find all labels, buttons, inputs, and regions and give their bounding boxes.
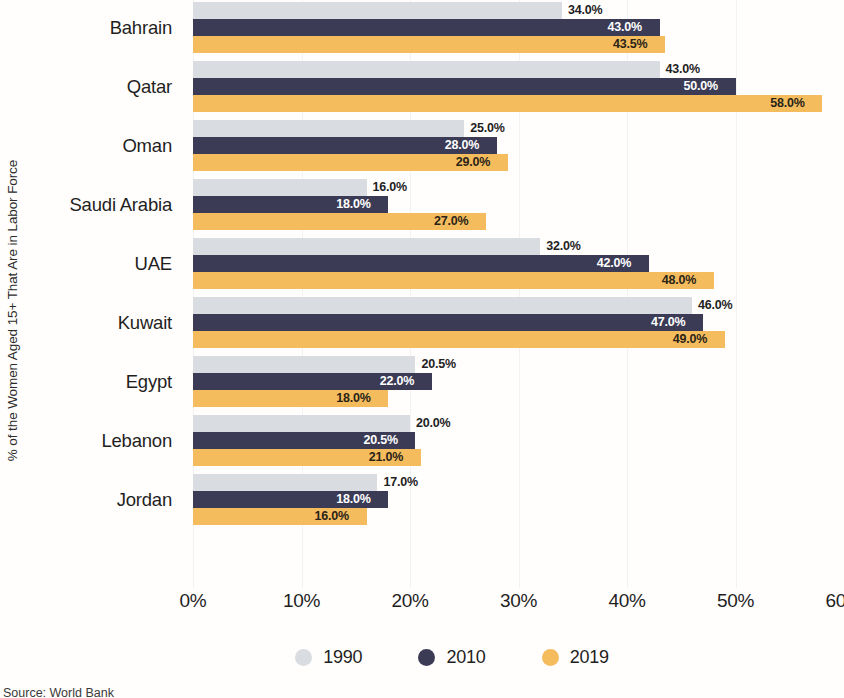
x-axis-tick-label: 20% — [391, 590, 428, 612]
bar[interactable] — [193, 19, 660, 36]
category-axis: BahrainQatarOmanSaudi ArabiaUAEKuwaitEgy… — [0, 0, 185, 588]
category-label: Bahrain — [0, 15, 172, 41]
legend-item[interactable]: 2010 — [418, 647, 485, 668]
legend-swatch-icon — [542, 649, 559, 666]
bar[interactable] — [193, 179, 367, 196]
bar-row: 43.5% — [193, 36, 844, 53]
bar-value-label: 21.0% — [369, 449, 403, 466]
bar-value-label: 42.0% — [597, 255, 631, 272]
bar[interactable] — [193, 120, 464, 137]
bar-value-label: 18.0% — [336, 196, 370, 213]
x-axis-tick-label: 30% — [500, 590, 537, 612]
x-axis-tick-label: 10% — [283, 590, 320, 612]
bar-row: 16.0% — [193, 179, 844, 196]
bar-value-label: 29.0% — [456, 154, 490, 171]
bar-group: 46.0%47.0%49.0% — [193, 297, 844, 356]
bar-value-label: 17.0% — [383, 474, 417, 491]
x-axis-tick-label: 0% — [180, 590, 207, 612]
bar-row: 17.0% — [193, 474, 844, 491]
legend-swatch-icon — [295, 649, 312, 666]
x-axis-tick-label: 40% — [608, 590, 645, 612]
bar-value-label: 22.0% — [380, 373, 414, 390]
bar-value-label: 32.0% — [546, 238, 580, 255]
bar-value-label: 25.0% — [470, 120, 504, 137]
bar-value-label: 43.0% — [666, 61, 700, 78]
legend-label: 2019 — [570, 647, 609, 668]
bar-value-label: 43.5% — [613, 36, 647, 53]
x-axis-tick-label: 60% — [825, 590, 844, 612]
category-label: Egypt — [0, 369, 172, 395]
bar-value-label: 47.0% — [651, 314, 685, 331]
bar-row: 20.0% — [193, 415, 844, 432]
bar-row: 18.0% — [193, 196, 844, 213]
bar-row: 48.0% — [193, 272, 844, 289]
bar-row: 32.0% — [193, 238, 844, 255]
bar-row: 42.0% — [193, 255, 844, 272]
bar-row: 20.5% — [193, 432, 844, 449]
bar[interactable] — [193, 95, 822, 112]
bar[interactable] — [193, 255, 649, 272]
bar-group: 34.0%43.0%43.5% — [193, 2, 844, 61]
bar-row: 21.0% — [193, 449, 844, 466]
legend-label: 2010 — [446, 647, 485, 668]
legend-label: 1990 — [323, 647, 362, 668]
bar-value-label: 18.0% — [336, 491, 370, 508]
bar-value-label: 18.0% — [336, 390, 370, 407]
bar-group: 17.0%18.0%16.0% — [193, 474, 844, 533]
bar-group: 43.0%50.0%58.0% — [193, 61, 844, 120]
bar-group: 20.5%22.0%18.0% — [193, 356, 844, 415]
bar-row: 34.0% — [193, 2, 844, 19]
legend: 199020102019 — [0, 640, 844, 674]
bar[interactable] — [193, 238, 540, 255]
category-label: Kuwait — [0, 310, 172, 336]
x-axis-tick-label: 50% — [717, 590, 754, 612]
bar-row: 29.0% — [193, 154, 844, 171]
bar-row: 47.0% — [193, 314, 844, 331]
legend-item[interactable]: 1990 — [295, 647, 362, 668]
bar-value-label: 28.0% — [445, 137, 479, 154]
bar-row: 16.0% — [193, 508, 844, 525]
bar-value-label: 49.0% — [673, 331, 707, 348]
source-note: Source: World Bank — [3, 686, 114, 698]
legend-swatch-icon — [418, 649, 435, 666]
bar-row: 43.0% — [193, 19, 844, 36]
bar-value-label: 46.0% — [698, 297, 732, 314]
bar-row: 46.0% — [193, 297, 844, 314]
bar-value-label: 50.0% — [684, 78, 718, 95]
bar-value-label: 16.0% — [315, 508, 349, 525]
legend-item[interactable]: 2019 — [542, 647, 609, 668]
bar[interactable] — [193, 297, 692, 314]
bar-value-label: 20.0% — [416, 415, 450, 432]
bar-row: 28.0% — [193, 137, 844, 154]
bar[interactable] — [193, 36, 665, 53]
bar-value-label: 43.0% — [608, 19, 642, 36]
bar-row: 49.0% — [193, 331, 844, 348]
bar-row: 18.0% — [193, 390, 844, 407]
bar-group: 16.0%18.0%27.0% — [193, 179, 844, 238]
bar[interactable] — [193, 78, 736, 95]
bar[interactable] — [193, 272, 714, 289]
bar[interactable] — [193, 2, 562, 19]
bar-row: 20.5% — [193, 356, 844, 373]
plot-area: 34.0%43.0%43.5%43.0%50.0%58.0%25.0%28.0%… — [193, 0, 844, 588]
category-label: Oman — [0, 133, 172, 159]
bar-group: 20.0%20.5%21.0% — [193, 415, 844, 474]
bar[interactable] — [193, 356, 415, 373]
bar[interactable] — [193, 314, 703, 331]
bar-group: 32.0%42.0%48.0% — [193, 238, 844, 297]
bar[interactable] — [193, 415, 410, 432]
category-label: Jordan — [0, 487, 172, 513]
bar-row: 58.0% — [193, 95, 844, 112]
bar-value-label: 20.5% — [421, 356, 455, 373]
category-label: Qatar — [0, 74, 172, 100]
bar-row: 22.0% — [193, 373, 844, 390]
bar[interactable] — [193, 474, 377, 491]
bar-value-label: 20.5% — [363, 432, 397, 449]
bar-value-label: 27.0% — [434, 213, 468, 230]
bar-row: 43.0% — [193, 61, 844, 78]
bar-row: 25.0% — [193, 120, 844, 137]
bar[interactable] — [193, 331, 725, 348]
category-label: Lebanon — [0, 428, 172, 454]
bar-row: 50.0% — [193, 78, 844, 95]
bar[interactable] — [193, 61, 660, 78]
